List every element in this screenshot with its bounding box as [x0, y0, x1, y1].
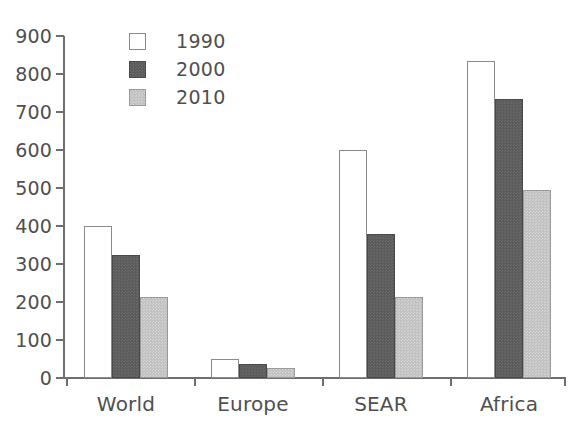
x-axis-label-africa: Africa	[480, 392, 538, 416]
bar-sear-1990	[339, 150, 367, 378]
bar-europe-2010	[267, 368, 295, 378]
bar-europe-2000	[239, 364, 267, 378]
x-axis-label-world: World	[97, 392, 155, 416]
bar-sear-2000	[367, 234, 395, 378]
bar-africa-1990	[467, 61, 495, 378]
x-axis-tick	[322, 377, 324, 386]
bar-sear-2010	[395, 297, 423, 378]
plot-area	[0, 0, 579, 378]
bar-europe-1990	[211, 359, 239, 378]
bar-chart: 1990 2000 2010 0100200300400500600700800…	[0, 0, 579, 441]
bar-world-2010	[140, 297, 168, 378]
x-axis-tick	[194, 377, 196, 386]
x-axis-tick	[450, 377, 452, 386]
bar-world-1990	[84, 226, 112, 378]
x-axis-tick	[564, 377, 566, 386]
x-axis-label-europe: Europe	[217, 392, 289, 416]
x-axis-label-sear: SEAR	[354, 392, 408, 416]
bar-africa-2010	[523, 190, 551, 378]
bar-world-2000	[112, 255, 140, 378]
x-axis-tick	[66, 377, 68, 386]
bar-africa-2000	[495, 99, 523, 378]
